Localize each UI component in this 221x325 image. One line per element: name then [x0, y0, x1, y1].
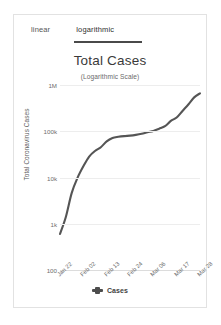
tab-logarithmic[interactable]: logarithmic	[76, 19, 114, 41]
y-tick-label: 100	[31, 267, 57, 274]
gridline	[60, 85, 200, 86]
y-tick-label: 10k	[31, 174, 57, 181]
gridline	[60, 178, 200, 179]
gridline	[60, 131, 200, 132]
y-axis-ticks: 1001k10k100k1M	[31, 85, 57, 270]
x-tick-label: Jan 22	[56, 261, 73, 277]
y-tick-label: 100k	[31, 128, 57, 135]
active-tab-indicator	[74, 41, 142, 43]
y-axis-title: Total Coronavirus Cases	[23, 85, 30, 205]
plot-area: Total Coronavirus Cases 1001k10k100k1M J…	[14, 85, 208, 275]
y-tick-label: 1k	[31, 220, 57, 227]
gridline	[60, 224, 200, 225]
y-tick-label: 1M	[31, 82, 57, 89]
chart-subtitle: (Logarithmic Scale)	[14, 73, 206, 80]
screenshot-root: linear logarithmic Total Cases (Logarith…	[0, 0, 221, 325]
chart-card: linear logarithmic Total Cases (Logarith…	[13, 14, 207, 308]
chart-legend: Cases	[14, 287, 206, 294]
chart-title: Total Cases	[14, 53, 206, 68]
legend-label-cases: Cases	[107, 287, 128, 294]
legend-marker-icon	[92, 289, 103, 292]
tab-linear[interactable]: linear	[31, 19, 50, 41]
grid-and-series	[60, 85, 200, 270]
